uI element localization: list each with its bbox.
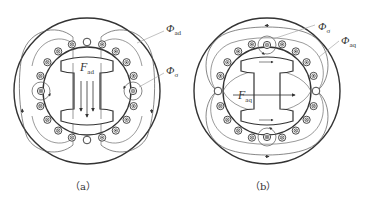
label-mmf-aq: Faq [238,88,252,104]
coil-empty-top [83,38,91,46]
label-flux-sigma-a: Φσ [166,64,178,79]
caption-a: （a） [70,178,96,193]
panel-a [14,18,164,164]
coil-empty-bottom [83,136,91,144]
panel-b [194,18,340,164]
caption-b: （b） [250,178,276,193]
label-flux-sigma-b: Φσ [318,20,330,35]
label-flux-ad: Φad [166,22,181,37]
label-mmf-ad: Fad [80,60,94,76]
label-flux-aq: Φaq [341,34,356,49]
